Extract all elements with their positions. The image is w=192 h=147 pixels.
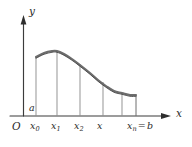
tick-label-xn-sub: n [133,125,137,133]
area-under-curve-figure: y x O a x0 x1 x2 x xn=b [0,0,192,147]
tick-label-x1-sub: 1 [57,125,61,133]
tick-label-x0-sub: 0 [36,125,40,133]
upper-limit-value: b [147,120,153,131]
tick-label-x2-base: x [74,120,79,131]
tick-label-x3: x [97,121,102,131]
tick-label-xn-base: x [127,120,132,131]
tick-label-x0-base: x [30,120,35,131]
origin-label: O [12,121,21,132]
function-curve-highlight [36,52,136,96]
tick-label-x3-base: x [97,120,102,131]
lower-limit-label: a [29,103,35,113]
equals-sign: = [137,120,147,131]
y-axis-label: y [29,6,35,17]
figure-canvas [0,0,192,147]
tick-label-x1-base: x [51,120,56,131]
x-axis-arrow-icon [161,113,171,119]
tick-label-x2: x2 [74,121,84,131]
upper-limit-label: xn=b [127,121,153,131]
tick-label-x2-sub: 2 [80,125,84,133]
function-curve [36,51,136,95]
tick-label-x0: x0 [30,121,40,131]
y-axis-arrow-icon [21,15,27,25]
x-axis-label: x [176,108,182,119]
tick-label-x1: x1 [51,121,61,131]
